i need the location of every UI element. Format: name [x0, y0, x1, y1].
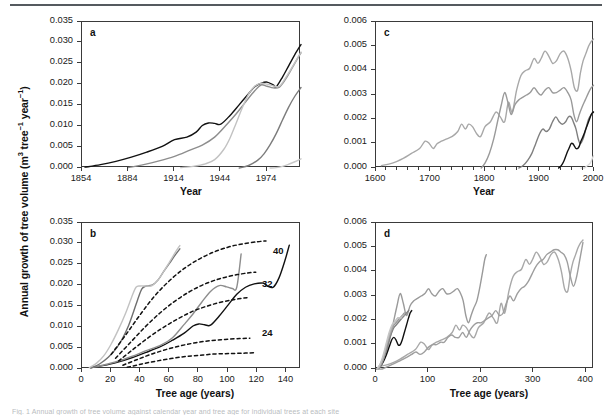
xtick-minor-mark	[516, 167, 517, 170]
panel-d-xaxis-title: Tree age (years)	[424, 388, 554, 399]
xtick-minor-mark	[582, 167, 583, 170]
xtick-label: 1884	[102, 173, 152, 183]
xtick-mark	[532, 368, 533, 372]
ytick-mark	[77, 347, 81, 348]
xtick-mark	[585, 368, 586, 372]
figure-root: Annual growth of tree volume (m3 tree−1 …	[0, 0, 611, 415]
panel-a-xaxis-title: Year	[141, 186, 241, 197]
panel-c-curves	[376, 22, 594, 168]
xtick-mark	[256, 368, 257, 372]
ytick-mark	[77, 305, 81, 306]
ytick-label: 0.006	[321, 216, 367, 226]
ytick-label: 0.030	[27, 35, 73, 45]
curve-tree-4-darkgrey	[239, 87, 301, 168]
ytick-label: 0.030	[27, 236, 73, 246]
ytick-label: 0.025	[27, 257, 73, 267]
ytick-label: 0.004	[321, 264, 367, 274]
xtick-label: 1900	[514, 173, 564, 183]
ytick-mark	[77, 125, 81, 126]
xtick-mark	[266, 167, 267, 171]
panel-c-plot-area: c	[375, 21, 593, 167]
ytick-label: 0.003	[321, 88, 367, 98]
ytick-mark	[371, 45, 375, 46]
panel-a-letter: a	[90, 27, 96, 38]
curve-chapman-richards-24	[127, 353, 254, 368]
xtick-label: 1914	[149, 173, 199, 183]
xtick-mark	[81, 368, 82, 372]
ytick-mark	[77, 62, 81, 63]
ytick-mark	[371, 343, 375, 344]
xtick-label: 1944	[195, 173, 245, 183]
ytick-label: 0.020	[27, 278, 73, 288]
ytick-label: 0.000	[321, 362, 367, 372]
ytick-mark	[77, 41, 81, 42]
xtick-mark	[227, 368, 228, 372]
xtick-minor-mark	[494, 167, 495, 170]
xtick-mark	[139, 368, 140, 372]
ytick-label: 0.004	[321, 63, 367, 73]
xtick-minor-mark	[418, 167, 419, 170]
xtick-mark	[538, 167, 539, 171]
xtick-minor-mark	[407, 167, 408, 170]
panel-d-curves	[376, 223, 594, 369]
ytick-mark	[371, 319, 375, 320]
xtick-mark	[110, 368, 111, 372]
ytick-mark	[77, 83, 81, 84]
ytick-label: 0.000	[27, 161, 73, 171]
panel-b-plot-area: b 40 32 24	[81, 222, 300, 368]
xtick-label: 300	[508, 374, 558, 384]
ytick-mark	[371, 118, 375, 119]
curve-tree-3-lightgrey	[181, 52, 301, 168]
panel-a-plot-area: a	[81, 21, 300, 167]
ytick-label: 0.002	[321, 313, 367, 323]
panel-d-letter: d	[384, 228, 390, 239]
ytick-label: 0.000	[27, 362, 73, 372]
xtick-mark	[173, 167, 174, 171]
xtick-mark	[429, 167, 430, 171]
ytick-mark	[77, 263, 81, 264]
curve-tree-black-solid	[91, 245, 290, 368]
ytick-mark	[77, 146, 81, 147]
curve-tree-5-palegrey	[270, 159, 301, 168]
xtick-mark	[427, 368, 428, 372]
ytick-label: 0.001	[321, 337, 367, 347]
ytick-mark	[371, 222, 375, 223]
ytick-mark	[371, 94, 375, 95]
xtick-minor-mark	[549, 167, 550, 170]
xtick-label: 100	[403, 374, 453, 384]
ytick-label: 0.003	[321, 289, 367, 299]
ytick-label: 0.020	[27, 77, 73, 87]
xtick-mark	[285, 368, 286, 372]
ytick-label: 0.035	[27, 216, 73, 226]
ytick-mark	[77, 222, 81, 223]
xtick-mark	[480, 368, 481, 372]
curve-tree-2-midgrey	[128, 53, 301, 168]
panel-d-plot-area: d	[375, 222, 593, 368]
xtick-mark	[593, 167, 594, 171]
ytick-label: 0.015	[27, 299, 73, 309]
ytick-label: 0.015	[27, 98, 73, 108]
panel-c-xaxis-title: Year	[434, 186, 534, 197]
xtick-label: 400	[560, 374, 610, 384]
curve-tree-1865-darkgrey	[519, 112, 594, 168]
ytick-label: 0.005	[321, 240, 367, 250]
xtick-mark	[219, 167, 220, 171]
curve-label-32: 32	[262, 278, 273, 289]
ytick-label: 0.002	[321, 112, 367, 122]
xtick-minor-mark	[385, 167, 386, 170]
xtick-label: 1974	[241, 173, 291, 183]
xtick-label: 1700	[405, 173, 455, 183]
panel-b-xaxis-title: Tree age (years)	[130, 388, 260, 399]
curve-label-24: 24	[262, 327, 273, 338]
curve-tree-mid-grey	[377, 255, 486, 369]
xtick-mark	[81, 167, 82, 171]
xtick-mark	[375, 167, 376, 171]
xtick-label: 2000	[568, 173, 611, 183]
xtick-label: 1854	[56, 173, 106, 183]
ytick-label: 0.010	[27, 119, 73, 129]
xtick-minor-mark	[560, 167, 561, 170]
xtick-mark	[375, 368, 376, 372]
ytick-label: 0.006	[321, 15, 367, 25]
xtick-mark	[484, 167, 485, 171]
curve-tree-midgrey-solid	[91, 254, 241, 368]
